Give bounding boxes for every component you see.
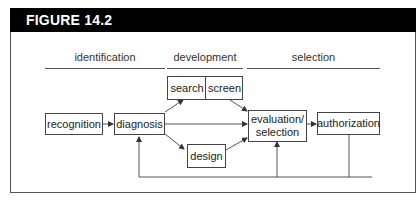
search-screen-divider: [205, 76, 206, 100]
node-search: search: [168, 77, 206, 99]
node-recognition: recognition: [45, 113, 103, 135]
node-evaluation-line2: selection: [256, 126, 299, 139]
node-evaluation-line1: evaluation/: [251, 113, 304, 126]
connector-arrows: [0, 0, 420, 204]
node-evaluation-selection: evaluation/ selection: [248, 110, 307, 142]
node-diagnosis: diagnosis: [114, 113, 165, 135]
node-design: design: [187, 144, 226, 168]
node-authorization: authorization: [317, 112, 380, 135]
node-screen: screen: [206, 77, 243, 99]
